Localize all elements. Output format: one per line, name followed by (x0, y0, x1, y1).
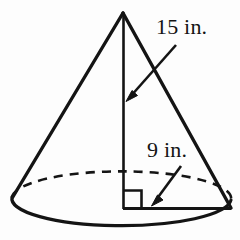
right-angle-marker (124, 191, 142, 209)
base-front-arc (12, 197, 231, 226)
radius-label: 9 in. (147, 139, 187, 161)
base-back-arc-dashed (12, 171, 231, 200)
slant-height-label: 15 in. (156, 16, 207, 38)
right-slant-edge (123, 13, 231, 208)
cone-figure: 15 in. 9 in. (0, 0, 240, 240)
left-slant-edge (13, 13, 124, 198)
